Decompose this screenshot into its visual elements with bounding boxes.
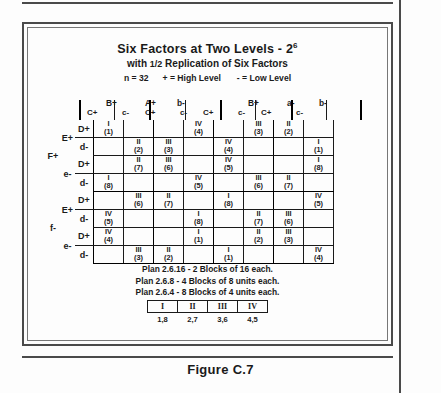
row-label-f-plus: F+ xyxy=(46,120,60,192)
row-label-f-minus: f- xyxy=(46,192,60,264)
figure-legend-line: n = 32+ = High Level- = Low Level xyxy=(24,71,391,86)
plan-line-0: Plan 2.6.16 - 2 Blocks of 16 each. xyxy=(24,264,391,276)
grid-cell-r1c2: III(3) xyxy=(154,138,184,156)
grid-cell-r4c4: I(8) xyxy=(214,192,244,210)
row-label-e-minus-1: e- xyxy=(60,156,75,192)
block-legend-value-2: 3,6 xyxy=(208,313,238,326)
block-legend-value-3: 4,5 xyxy=(238,313,268,326)
header-tick-7 xyxy=(326,100,327,120)
grid-cell-r3c5: III(6) xyxy=(244,174,274,192)
row-label-e-plus-2: E+ xyxy=(60,192,75,228)
grid-cell-r1c4: IV(4) xyxy=(214,138,244,156)
row-label-d-plus-1: D+ xyxy=(75,120,94,138)
grid-cell-r3c6: II(7) xyxy=(274,174,304,192)
plan-line-2: Plan 2.6.4 - 8 Blocks of 4 units each. xyxy=(24,287,391,299)
figure-subtitle: with 1/2 Replication of Six Factors xyxy=(24,57,391,71)
grid-cell-r2c0 xyxy=(94,156,124,174)
grid-cell-r0c0: I(1) xyxy=(94,120,124,138)
plan-line-1: Plan 2.6.8 - 4 Blocks of 8 units each. xyxy=(24,276,391,288)
grid-cell-r5c2 xyxy=(154,210,184,228)
block-legend-header-3: IV xyxy=(238,301,268,313)
col-header-7: c- xyxy=(296,108,303,117)
grid-cell-r5c4 xyxy=(214,210,244,228)
grid-cell-r1c6 xyxy=(274,138,304,156)
col-header-1: c- xyxy=(122,108,129,117)
row-label-d-minus-1: d- xyxy=(75,138,94,156)
grid-cell-r4c5 xyxy=(244,192,274,210)
plan-description-block: Plan 2.6.16 - 2 Blocks of 16 each. Plan … xyxy=(24,264,391,299)
figure-title-text: Six Factors at Two Levels - 2 xyxy=(117,42,293,56)
grid-cell-r5c3: I(8) xyxy=(184,210,214,228)
grid-cell-r3c1 xyxy=(124,174,154,192)
design-grid-body: F+ E+ D+ I(1) IV(4) III(3) II(2) d- II(2… xyxy=(46,120,334,264)
header-tick-5 xyxy=(255,100,256,120)
grid-cell-r1c1: II(2) xyxy=(124,138,154,156)
header-tick-8 xyxy=(360,100,362,120)
table-row: e- D+ IV(4) I(1) II(2) III(3) xyxy=(46,228,334,246)
table-row: d- IV(5) I(8) II(7) III(6) xyxy=(46,210,334,228)
block-legend-value-1: 2,7 xyxy=(178,313,208,326)
grid-cell-r3c4 xyxy=(214,174,244,192)
grid-cell-r0c5: III(3) xyxy=(244,120,274,138)
grid-cell-r4c7: IV(5) xyxy=(304,192,334,210)
grid-cell-r0c6: II(2) xyxy=(274,120,304,138)
grid-cell-r5c0: IV(5) xyxy=(94,210,124,228)
col-header-5: c- xyxy=(238,108,245,117)
header-tick-0 xyxy=(79,100,81,120)
figure-frame: Six Factors at Two Levels - 26 with 1/2 … xyxy=(22,22,393,346)
grid-cell-r6c2 xyxy=(154,228,184,246)
grid-cell-r7c6 xyxy=(274,246,304,264)
grid-cell-r2c1: II(7) xyxy=(124,156,154,174)
header-tick-1 xyxy=(114,100,115,120)
block-legend-container: I II III IV 1,8 2,7 3,6 4,5 xyxy=(24,300,391,325)
subtitle-suffix: Replication of Six Factors xyxy=(162,58,288,69)
table-row: f- E+ D+ III(6) II(7) I(8) IV(5) xyxy=(46,192,334,210)
figure-header: Six Factors at Two Levels - 26 with 1/2 … xyxy=(24,38,391,86)
grid-cell-r0c3: IV(4) xyxy=(184,120,214,138)
grid-cell-r7c7: IV(4) xyxy=(304,246,334,264)
page-right-rule xyxy=(399,0,401,393)
block-legend-value-row: 1,8 2,7 3,6 4,5 xyxy=(148,313,268,326)
legend-low-level: - = Low Level xyxy=(237,71,291,86)
grid-cell-r7c3 xyxy=(184,246,214,264)
grid-cell-r4c2: II(7) xyxy=(154,192,184,210)
grid-cell-r2c6 xyxy=(274,156,304,174)
col-header-3: c- xyxy=(180,108,187,117)
block-legend-table: I II III IV 1,8 2,7 3,6 4,5 xyxy=(147,300,268,325)
grid-cell-r3c7 xyxy=(304,174,334,192)
grid-cell-r7c4: I(1) xyxy=(214,246,244,264)
block-legend-header-2: III xyxy=(208,301,238,313)
col-group-b-minus-1: b- xyxy=(177,98,185,108)
legend-sample-size: n = 32 xyxy=(124,71,149,86)
grid-cell-r6c1 xyxy=(124,228,154,246)
block-legend-header-0: I xyxy=(148,301,178,313)
col-group-b-plus-1: B+ xyxy=(106,98,117,108)
grid-cell-r7c2: II(2) xyxy=(154,246,184,264)
row-label-d-plus-2: D+ xyxy=(75,156,94,174)
table-row: e- D+ II(7) III(6) IV(5) I(8) xyxy=(46,156,334,174)
grid-cell-r5c7 xyxy=(304,210,334,228)
grid-cell-r1c3 xyxy=(184,138,214,156)
grid-cell-r6c3: I(1) xyxy=(184,228,214,246)
grid-cell-r1c0 xyxy=(94,138,124,156)
grid-cell-r2c2: III(6) xyxy=(154,156,184,174)
row-label-d-minus-4: d- xyxy=(75,246,94,264)
figure-caption: Figure C.7 xyxy=(0,362,441,377)
grid-cell-r5c6: III(6) xyxy=(274,210,304,228)
header-tick-3 xyxy=(185,100,186,120)
grid-cell-r7c1: III(3) xyxy=(124,246,154,264)
grid-cell-r1c7: I(1) xyxy=(304,138,334,156)
grid-cell-r2c5 xyxy=(244,156,274,174)
grid-cell-r6c7 xyxy=(304,228,334,246)
table-row: d- III(3) II(2) I(1) IV(4) xyxy=(46,246,334,264)
grid-cell-r0c7 xyxy=(304,120,334,138)
table-row: d- I(8) IV(5) III(6) II(7) xyxy=(46,174,334,192)
grid-cell-r4c0 xyxy=(94,192,124,210)
grid-cell-r5c5: II(7) xyxy=(244,210,274,228)
row-label-e-plus-1: E+ xyxy=(60,120,75,156)
grid-cell-r2c3 xyxy=(184,156,214,174)
row-label-e-minus-2: e- xyxy=(60,228,75,264)
grid-cell-r2c4: IV(5) xyxy=(214,156,244,174)
header-tick-2 xyxy=(149,100,151,120)
col-header-0: C+ xyxy=(87,108,97,117)
